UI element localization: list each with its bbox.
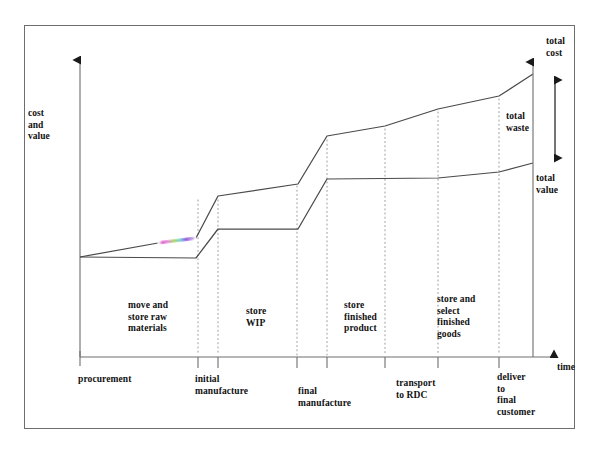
tick-label-procurement: procurement: [78, 374, 132, 386]
tick-label-initial-manufacture: initial manufacture: [195, 374, 248, 397]
annotation-total-cost: total cost: [546, 36, 565, 59]
tick-label-transport-to-rdc: transport to RDC: [396, 378, 435, 401]
stage-label-store-finished-product: store finished product: [344, 300, 377, 335]
tick-label-deliver-to-final-customer: deliver to final customer: [497, 372, 535, 418]
x-axis-label: time: [557, 362, 575, 374]
stage-label-move-store-raw-materials: move and store raw materials: [128, 300, 168, 335]
annotation-total-value: total value: [536, 173, 558, 196]
annotation-total-waste: total waste: [506, 111, 529, 134]
stage-label-store-wip: store WIP: [246, 306, 266, 329]
figure-border: [24, 25, 575, 429]
figure-canvas: cost and value time total cost total was…: [0, 0, 598, 449]
tick-label-final-manufacture: final manufacture: [298, 386, 351, 409]
stage-label-store-select-finished-goods: store and select finished goods: [437, 294, 475, 340]
y-axis-label: cost and value: [28, 108, 50, 143]
